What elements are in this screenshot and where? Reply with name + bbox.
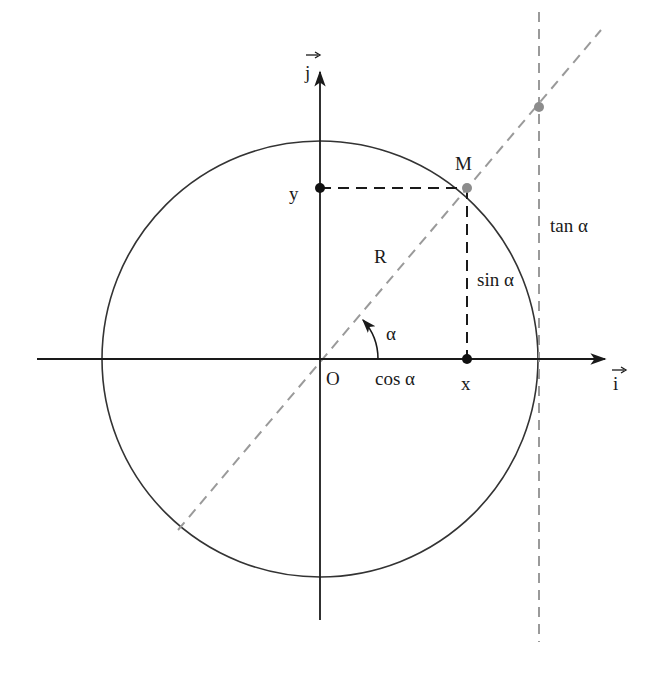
cos-label: cos α bbox=[375, 368, 415, 389]
radius-label: R bbox=[374, 246, 387, 267]
svg-text:i: i bbox=[613, 373, 618, 394]
x-label: x bbox=[461, 373, 471, 394]
point-y bbox=[315, 183, 325, 193]
point-m-label: M bbox=[455, 153, 472, 174]
tan-label: tan α bbox=[550, 215, 588, 236]
y-label: y bbox=[289, 183, 299, 204]
origin-label: O bbox=[326, 368, 340, 389]
point-m bbox=[462, 183, 472, 193]
sin-label: sin α bbox=[477, 269, 514, 290]
point-tangent bbox=[534, 102, 544, 112]
unit-circle-diagram: j i O M y x R α cos α sin α tan α bbox=[0, 0, 662, 680]
angle-label: α bbox=[386, 323, 396, 344]
point-x bbox=[462, 354, 472, 364]
svg-text:j: j bbox=[304, 62, 310, 83]
unit-vector-i-label: i bbox=[612, 367, 626, 394]
unit-vector-j-label: j bbox=[304, 52, 320, 83]
angle-arc bbox=[363, 320, 378, 359]
